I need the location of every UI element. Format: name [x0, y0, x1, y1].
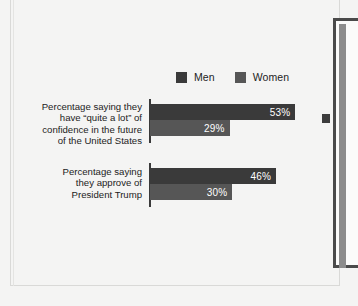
page-corner-mark-icon: [322, 114, 330, 123]
bar-value-women-confidence: 29%: [204, 123, 230, 134]
legend-item-women: Women: [235, 71, 290, 83]
bar-value-women-approve-trump: 30%: [207, 187, 233, 198]
grouped-bar-chart: Men Women Percentage saying they have “q…: [0, 0, 358, 306]
bar-men-confidence: 53%: [150, 104, 295, 120]
category-label-approve-president-trump: Percentage saying they approve of Presid…: [18, 166, 142, 200]
category-label-confidence-future-us: Percentage saying they have “quite a lot…: [18, 101, 142, 147]
bar-value-men-confidence: 53%: [270, 107, 296, 118]
bar-women-approve-trump: 30%: [150, 184, 232, 200]
bar-men-approve-trump: 46%: [150, 168, 276, 184]
legend-label-men: Men: [194, 71, 215, 83]
chart-page: Men Women Percentage saying they have “q…: [0, 0, 358, 306]
legend-swatch-men: [176, 72, 187, 83]
chart-legend: Men Women: [176, 71, 289, 83]
bar-women-confidence: 29%: [150, 120, 230, 136]
bar-value-men-approve-trump: 46%: [251, 171, 277, 182]
right-side-panel: [333, 18, 358, 268]
legend-item-men: Men: [176, 71, 215, 83]
legend-label-women: Women: [253, 71, 290, 83]
right-side-panel-bar: [339, 24, 346, 268]
legend-swatch-women: [235, 72, 246, 83]
